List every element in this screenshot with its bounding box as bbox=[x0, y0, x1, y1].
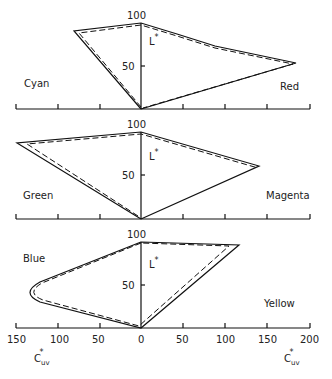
x-ticks bbox=[16, 323, 310, 328]
svg-text:100: 100 bbox=[50, 334, 69, 345]
svg-text:50: 50 bbox=[92, 334, 105, 345]
y-tick-100: 100 bbox=[127, 10, 146, 21]
svg-text:0: 0 bbox=[138, 334, 144, 345]
y-tick-100: 100 bbox=[127, 119, 146, 130]
svg-text:150: 150 bbox=[258, 334, 277, 345]
x-axis-label-right: Cuv* bbox=[284, 348, 300, 367]
label-green: Green bbox=[23, 190, 53, 201]
panel-green-magenta: 100 50 L* Green Magenta bbox=[16, 119, 310, 219]
x-ticks bbox=[16, 104, 310, 109]
x-ticks bbox=[16, 214, 310, 219]
x-axis-label-left: Cuv* bbox=[34, 348, 50, 367]
label-red: Red bbox=[280, 81, 299, 92]
y-tick-100: 100 bbox=[127, 229, 146, 240]
solid-gamut bbox=[17, 132, 259, 219]
x-tick-labels: 150 100 50 0 50 100 150 200 bbox=[7, 334, 319, 345]
panel-cyan-red: 100 50 L* Cyan Red bbox=[16, 10, 310, 109]
svg-text:200: 200 bbox=[300, 334, 319, 345]
y-axis-label: L* bbox=[149, 33, 159, 47]
svg-text:150: 150 bbox=[7, 334, 26, 345]
panel-blue-yellow: 100 50 L* Blue Yellow 150 100 50 0 50 10… bbox=[7, 229, 319, 367]
y-axis-label: L* bbox=[149, 148, 159, 162]
svg-text:50: 50 bbox=[176, 334, 189, 345]
svg-text:100: 100 bbox=[216, 334, 235, 345]
y-axis-label: L* bbox=[149, 256, 159, 270]
y-tick-50: 50 bbox=[122, 280, 135, 291]
chart-figure: 100 50 L* Cyan Red 100 50 L* Green Magen… bbox=[0, 0, 332, 379]
y-tick-50: 50 bbox=[122, 170, 135, 181]
label-magenta: Magenta bbox=[266, 190, 310, 201]
label-yellow: Yellow bbox=[263, 298, 295, 309]
label-blue: Blue bbox=[23, 253, 45, 264]
label-cyan: Cyan bbox=[24, 78, 49, 89]
y-tick-50: 50 bbox=[122, 61, 135, 72]
